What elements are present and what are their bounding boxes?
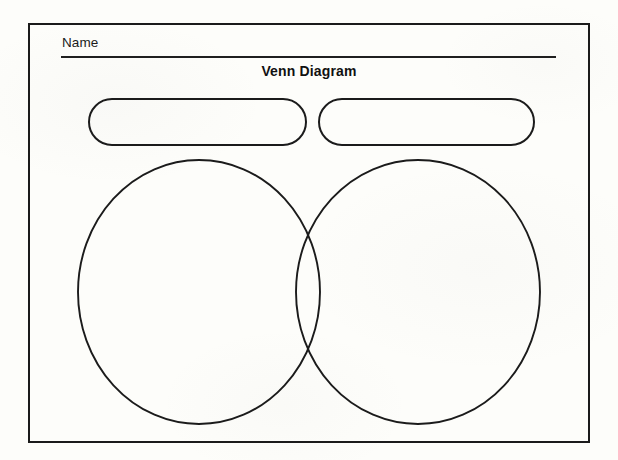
page-title: Venn Diagram [28, 63, 590, 79]
right-set-label-box[interactable] [318, 98, 535, 146]
left-set-label-text [90, 100, 305, 144]
right-set-label-text [320, 100, 533, 144]
venn-diagram-worksheet: Name Venn Diagram [0, 0, 618, 460]
name-field-write-line[interactable] [61, 56, 556, 58]
left-set-label-box[interactable] [88, 98, 307, 146]
name-field-label: Name [62, 35, 98, 50]
